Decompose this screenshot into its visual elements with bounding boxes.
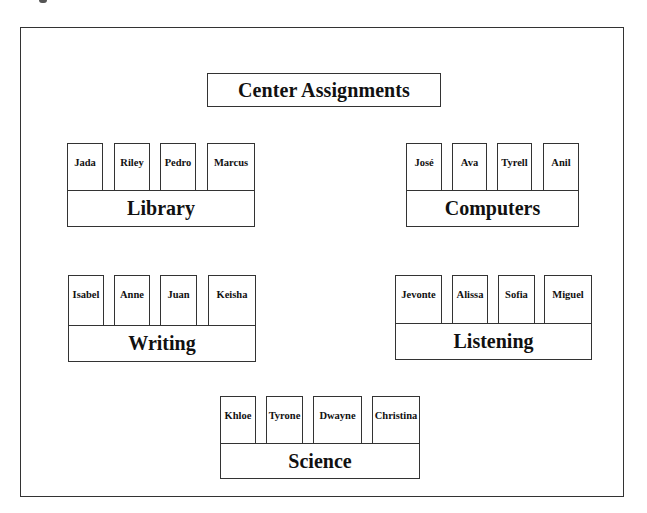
- student-box: Ava: [452, 143, 487, 191]
- center-label-computers: Computers: [406, 190, 579, 227]
- student-box: Marcus: [207, 143, 255, 191]
- student-box: Christina: [372, 396, 420, 444]
- student-box: Tyrone: [266, 396, 303, 444]
- student-box: Pedro: [160, 143, 196, 191]
- center-label-library: Library: [67, 190, 255, 227]
- student-box: José: [406, 143, 442, 191]
- student-box: Anil: [543, 143, 579, 191]
- student-box: Tyrell: [497, 143, 532, 191]
- student-box: Keisha: [208, 275, 256, 326]
- student-box: Jada: [67, 143, 103, 191]
- student-box: Sofia: [498, 275, 535, 324]
- student-box: Riley: [114, 143, 150, 191]
- student-box: Juan: [160, 275, 197, 326]
- scan-artifact: [39, 0, 47, 3]
- student-box: Miguel: [544, 275, 592, 324]
- student-box: Anne: [114, 275, 150, 326]
- student-box: Khloe: [220, 396, 256, 444]
- center-label-listening: Listening: [395, 323, 592, 360]
- student-box: Isabel: [68, 275, 104, 326]
- student-box: Dwayne: [313, 396, 362, 444]
- center-label-writing: Writing: [68, 325, 256, 362]
- student-box: Jevonte: [395, 275, 442, 324]
- diagram-title: Center Assignments: [207, 73, 441, 107]
- student-box: Alissa: [452, 275, 488, 324]
- center-label-science: Science: [220, 443, 420, 479]
